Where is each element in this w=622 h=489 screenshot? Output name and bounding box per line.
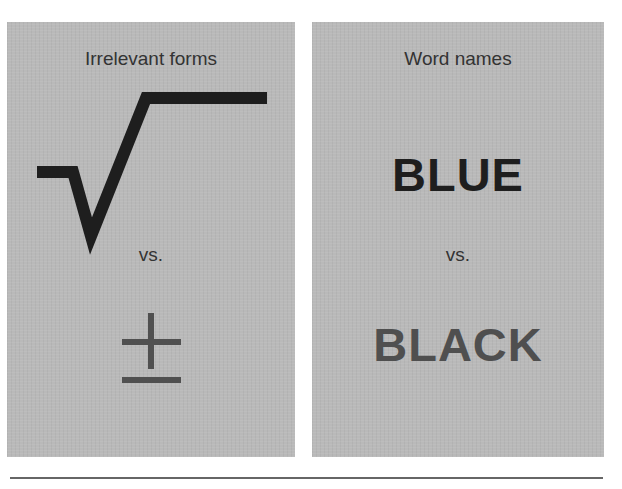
plus-minus-symbol-icon bbox=[7, 22, 295, 457]
word-blue: BLUE bbox=[312, 147, 604, 202]
vs-label-right: vs. bbox=[312, 244, 604, 266]
horizontal-rule bbox=[10, 477, 603, 479]
word-black: BLACK bbox=[312, 317, 604, 372]
irrelevant-forms-panel: Irrelevant forms vs. bbox=[7, 22, 295, 457]
word-names-panel: Word names BLUE vs. BLACK bbox=[312, 22, 604, 457]
panel-title-word-names: Word names bbox=[312, 48, 604, 70]
